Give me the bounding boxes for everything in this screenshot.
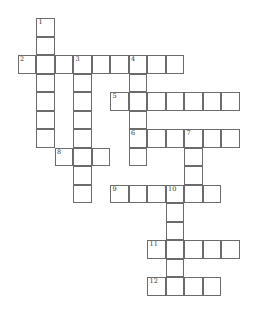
crossword-cell[interactable] xyxy=(203,240,222,259)
crossword-cell[interactable] xyxy=(147,185,166,204)
crossword-cell[interactable] xyxy=(36,111,55,130)
crossword-cell[interactable] xyxy=(73,148,92,167)
crossword-cell[interactable] xyxy=(147,129,166,148)
crossword-cell[interactable] xyxy=(184,92,203,111)
crossword-cell[interactable] xyxy=(129,74,148,93)
crossword-cell[interactable] xyxy=(184,240,203,259)
crossword-cell[interactable] xyxy=(203,92,222,111)
crossword-cell[interactable] xyxy=(36,37,55,56)
clue-number: 6 xyxy=(131,130,135,137)
crossword-cell[interactable] xyxy=(221,92,240,111)
crossword-cell[interactable]: 8 xyxy=(55,148,74,167)
crossword-cell[interactable] xyxy=(73,111,92,130)
clue-number: 10 xyxy=(168,186,176,193)
crossword-cell[interactable] xyxy=(166,203,185,222)
clue-number: 7 xyxy=(187,130,191,137)
crossword-cell[interactable] xyxy=(221,129,240,148)
crossword-cell[interactable] xyxy=(166,277,185,296)
crossword-cell[interactable] xyxy=(147,92,166,111)
crossword-cell[interactable] xyxy=(110,55,129,74)
crossword-cell[interactable] xyxy=(73,129,92,148)
crossword-cell[interactable] xyxy=(73,74,92,93)
crossword-cell[interactable] xyxy=(203,185,222,204)
crossword-cell[interactable] xyxy=(221,240,240,259)
clue-number: 3 xyxy=(76,56,80,63)
crossword-cell[interactable]: 4 xyxy=(129,55,148,74)
crossword-cell[interactable] xyxy=(166,259,185,278)
crossword-cell[interactable]: 11 xyxy=(147,240,166,259)
crossword-cell[interactable] xyxy=(147,55,166,74)
crossword-cell[interactable]: 5 xyxy=(110,92,129,111)
crossword-cell[interactable] xyxy=(73,185,92,204)
crossword-cell[interactable]: 9 xyxy=(110,185,129,204)
crossword-cell[interactable] xyxy=(203,129,222,148)
crossword-cell[interactable]: 10 xyxy=(166,185,185,204)
crossword-cell[interactable]: 1 xyxy=(36,18,55,37)
crossword-cell[interactable]: 2 xyxy=(18,55,37,74)
crossword-cell[interactable] xyxy=(73,92,92,111)
crossword-cell[interactable] xyxy=(129,92,148,111)
crossword-cell[interactable] xyxy=(55,55,74,74)
crossword-grid: 123465789101112 xyxy=(0,0,259,317)
crossword-cell[interactable] xyxy=(92,55,111,74)
crossword-cell[interactable] xyxy=(184,277,203,296)
clue-number: 5 xyxy=(113,93,117,100)
crossword-cell[interactable] xyxy=(36,92,55,111)
crossword-cell[interactable] xyxy=(166,129,185,148)
crossword-cell[interactable] xyxy=(184,148,203,167)
crossword-cell[interactable] xyxy=(166,240,185,259)
clue-number: 1 xyxy=(39,19,43,26)
clue-number: 12 xyxy=(150,278,158,285)
crossword-cell[interactable] xyxy=(166,55,185,74)
crossword-cell[interactable] xyxy=(129,148,148,167)
crossword-cell[interactable] xyxy=(129,185,148,204)
crossword-cell[interactable]: 7 xyxy=(184,129,203,148)
clue-number: 8 xyxy=(57,149,61,156)
crossword-cell[interactable]: 3 xyxy=(73,55,92,74)
crossword-cell[interactable] xyxy=(184,166,203,185)
clue-number: 11 xyxy=(150,241,158,248)
clue-number: 9 xyxy=(113,186,117,193)
crossword-cell[interactable]: 12 xyxy=(147,277,166,296)
clue-number: 2 xyxy=(20,56,24,63)
crossword-cell[interactable] xyxy=(203,277,222,296)
crossword-cell[interactable] xyxy=(36,55,55,74)
crossword-cell[interactable] xyxy=(92,148,111,167)
crossword-cell[interactable] xyxy=(166,92,185,111)
crossword-cell[interactable] xyxy=(73,166,92,185)
crossword-cell[interactable] xyxy=(166,222,185,241)
crossword-cell[interactable] xyxy=(36,74,55,93)
crossword-cell[interactable]: 6 xyxy=(129,129,148,148)
crossword-cell[interactable] xyxy=(184,185,203,204)
crossword-cell[interactable] xyxy=(129,111,148,130)
crossword-cell[interactable] xyxy=(36,129,55,148)
clue-number: 4 xyxy=(131,56,135,63)
